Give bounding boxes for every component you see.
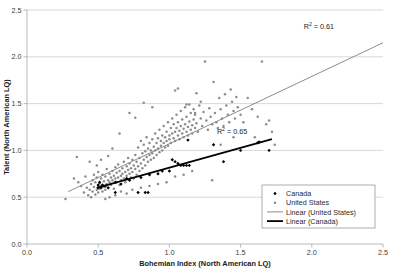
data-point-us-52 bbox=[118, 170, 121, 173]
data-point-us-179 bbox=[224, 93, 227, 96]
data-point-us-17 bbox=[94, 181, 97, 184]
data-point-us-32 bbox=[104, 175, 107, 178]
data-point-us-189 bbox=[239, 114, 242, 117]
data-point-us-84 bbox=[141, 167, 144, 170]
data-point-us-45 bbox=[114, 166, 117, 169]
data-point-us-96 bbox=[150, 159, 153, 162]
data-point-us-115 bbox=[164, 136, 167, 139]
data-point-us-99 bbox=[152, 145, 155, 148]
data-point-us-163 bbox=[201, 125, 204, 128]
data-point-us-223 bbox=[157, 183, 160, 186]
data-point-us-21 bbox=[97, 191, 100, 194]
data-point-us-218 bbox=[120, 190, 123, 193]
data-point-us-151 bbox=[190, 129, 193, 132]
data-point-us-139 bbox=[181, 132, 184, 135]
data-point-us-100 bbox=[152, 157, 155, 160]
data-point-us-80 bbox=[138, 170, 141, 173]
data-point-us-60 bbox=[124, 181, 127, 184]
data-point-us-199 bbox=[274, 144, 277, 147]
y-axis-title: Talent (North American LQ) bbox=[2, 79, 11, 175]
data-point-us-133 bbox=[177, 134, 180, 137]
data-point-us-150 bbox=[188, 120, 191, 123]
data-point-us-128 bbox=[172, 123, 175, 126]
data-point-us-11 bbox=[90, 196, 93, 199]
data-point-us-90 bbox=[145, 156, 148, 159]
data-point-us-93 bbox=[148, 142, 151, 145]
data-point-us-77 bbox=[137, 146, 140, 149]
r2-canada: R2 = 0.65 bbox=[217, 126, 247, 136]
data-point-us-94 bbox=[148, 154, 151, 157]
data-point-us-215 bbox=[108, 196, 111, 199]
data-point-us-162 bbox=[199, 117, 202, 120]
x-tick-label-2: 1.0 bbox=[164, 248, 174, 257]
data-point-us-86 bbox=[143, 159, 146, 162]
legend-label-1: United States bbox=[286, 198, 330, 207]
data-point-us-62 bbox=[125, 174, 128, 177]
data-point-us-78 bbox=[137, 165, 140, 168]
data-point-us-15 bbox=[93, 173, 96, 176]
data-point-us-89 bbox=[145, 136, 148, 139]
y-tick-label-3: 1.5 bbox=[12, 99, 22, 108]
data-point-us-153 bbox=[191, 124, 194, 127]
data-point-us-49 bbox=[117, 176, 120, 179]
data-point-us-209 bbox=[174, 89, 177, 92]
data-point-us-147 bbox=[187, 126, 190, 129]
data-point-us-224 bbox=[165, 181, 168, 184]
data-point-us-138 bbox=[180, 125, 183, 128]
data-point-us-110 bbox=[160, 144, 163, 147]
data-point-us-211 bbox=[185, 103, 188, 106]
data-point-us-176 bbox=[219, 108, 222, 111]
legend-marker-1 bbox=[274, 201, 277, 204]
data-point-us-190 bbox=[242, 121, 245, 124]
data-point-us-74 bbox=[134, 168, 137, 171]
data-point-us-135 bbox=[178, 129, 181, 132]
data-point-us-73 bbox=[134, 154, 137, 157]
data-point-us-198 bbox=[271, 130, 274, 133]
data-point-us-0 bbox=[64, 198, 67, 201]
data-point-us-226 bbox=[182, 173, 185, 176]
data-point-us-111 bbox=[161, 134, 164, 137]
data-point-us-29 bbox=[103, 180, 106, 183]
y-tick-label-1: 0.5 bbox=[12, 193, 22, 202]
data-point-us-108 bbox=[158, 151, 161, 154]
data-point-us-126 bbox=[171, 132, 174, 135]
data-point-us-167 bbox=[207, 129, 210, 132]
data-point-us-105 bbox=[157, 137, 160, 140]
data-point-us-149 bbox=[188, 103, 191, 106]
data-point-us-220 bbox=[131, 188, 134, 191]
data-point-us-95 bbox=[150, 149, 153, 152]
data-point-us-188 bbox=[237, 106, 240, 109]
data-point-us-88 bbox=[144, 164, 147, 167]
data-point-us-2 bbox=[76, 156, 79, 159]
data-point-us-230 bbox=[100, 159, 103, 162]
data-point-us-222 bbox=[148, 185, 151, 188]
data-point-us-22 bbox=[97, 171, 100, 174]
data-point-us-141 bbox=[182, 128, 185, 131]
data-point-us-187 bbox=[235, 96, 238, 99]
data-point-us-164 bbox=[202, 111, 205, 114]
legend-label-0: Canada bbox=[286, 189, 311, 198]
data-point-us-207 bbox=[143, 101, 146, 104]
data-point-us-61 bbox=[125, 165, 128, 168]
data-point-us-129 bbox=[174, 130, 177, 133]
data-point-us-64 bbox=[127, 157, 130, 160]
data-point-us-44 bbox=[113, 188, 116, 191]
data-point-us-156 bbox=[192, 118, 195, 121]
data-point-us-165 bbox=[204, 60, 207, 63]
data-point-us-168 bbox=[208, 107, 211, 110]
data-point-us-50 bbox=[117, 163, 120, 166]
data-point-us-183 bbox=[229, 88, 232, 91]
data-point-us-107 bbox=[158, 129, 161, 132]
data-point-us-38 bbox=[108, 181, 111, 184]
data-point-us-152 bbox=[190, 112, 193, 115]
data-point-us-92 bbox=[147, 160, 150, 163]
y-tick-label-5: 2.5 bbox=[12, 6, 22, 15]
data-point-us-113 bbox=[162, 125, 165, 128]
data-point-us-182 bbox=[228, 121, 231, 124]
data-point-us-137 bbox=[180, 110, 183, 113]
data-point-us-210 bbox=[177, 87, 180, 90]
data-point-us-185 bbox=[232, 110, 235, 113]
data-point-us-87 bbox=[144, 150, 147, 153]
data-point-us-34 bbox=[105, 168, 108, 171]
data-point-us-123 bbox=[170, 127, 173, 130]
